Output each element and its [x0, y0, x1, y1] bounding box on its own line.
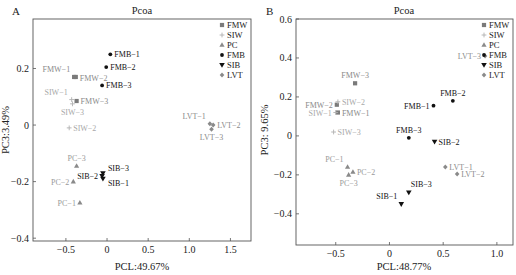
panel-a-legend: FMWSIWPCFMBSIBLVT	[219, 20, 247, 80]
data-point-pc-2: PC−2	[350, 168, 375, 177]
legend-pc-marker	[219, 42, 224, 47]
legend-item-siw: SIW	[482, 30, 505, 40]
pc-marker	[345, 164, 350, 169]
legend-item-lvt: LVT	[220, 70, 244, 80]
point-label: SIB−3	[108, 164, 129, 173]
legend-sib-marker	[481, 63, 487, 68]
lvt-marker	[443, 165, 448, 170]
legend-item-lvt: LVT	[482, 70, 506, 80]
x-tick-label: 1.0	[183, 244, 196, 255]
pcoa-figure: A Pcoa −0.500.51.01.5 −0.4−0.200.2 FMW−1…	[0, 0, 516, 275]
y-tick-label: 0.2	[17, 63, 30, 74]
legend-label: LVT	[489, 70, 506, 80]
legend-label: PC	[227, 40, 238, 50]
lvt-marker	[209, 127, 214, 132]
panel-b-y-ticks: −0.4−0.200.20.40.6	[274, 14, 299, 220]
point-label: SIW−3	[338, 128, 361, 137]
fmw-marker	[74, 75, 78, 79]
y-tick-label: 0.2	[280, 91, 293, 102]
legend-label: SIB	[227, 60, 241, 70]
panel-b: B Pcoa −0.500.51.0 −0.4−0.200.20.40.6 FM…	[259, 5, 513, 272]
point-label: SIB−2	[77, 172, 98, 181]
point-label: SIB−1	[108, 179, 129, 188]
x-tick-label: −0.5	[327, 248, 345, 259]
legend-label: FMW	[489, 20, 509, 30]
data-point-fmw-1: FMW−1	[336, 109, 370, 118]
data-point-siw-2: SIW−2	[67, 124, 97, 133]
legend-label: SIB	[489, 60, 503, 70]
siw-marker	[69, 97, 74, 102]
legend-sib-marker	[219, 63, 225, 68]
x-tick-label: 1.5	[224, 244, 237, 255]
point-label: PC−3	[339, 179, 357, 188]
data-point-fmw-3: FMW−3	[341, 71, 369, 85]
panel-a-title: Pcoa	[132, 5, 153, 16]
data-point-fmb-3: FMB−3	[396, 126, 421, 140]
data-point-siw-1: SIW−1	[309, 109, 339, 118]
legend-siw-marker	[220, 33, 225, 38]
legend-label: LVT	[227, 70, 244, 80]
point-label: FMB−2	[440, 89, 465, 98]
data-point-pc-3: PC−3	[67, 154, 85, 168]
legend-label: FMB	[489, 50, 507, 60]
data-point-siw-1: SIW−1	[44, 88, 74, 102]
legend-label: FMW	[227, 20, 247, 30]
legend-item-fmb: FMB	[220, 50, 245, 60]
pc-marker	[350, 169, 355, 174]
data-point-pc-1: PC−1	[58, 199, 83, 208]
y-tick-label: −0.2	[274, 169, 292, 180]
point-label: SIW−1	[309, 109, 332, 118]
point-label: FMW−3	[81, 97, 109, 106]
point-label: LVT−2	[461, 170, 484, 179]
panel-a-points: FMW−1FMW−2FMW−3SIW−1SIW−3SIW−2FMB−1FMB−2…	[43, 50, 241, 207]
legend-item-pc: PC	[219, 40, 237, 50]
y-tick-label: −0.2	[11, 176, 29, 187]
legend-item-fmw: FMW	[220, 20, 247, 30]
y-tick-label: 0	[24, 120, 29, 131]
point-label: PC−1	[325, 155, 343, 164]
fmw-marker	[353, 81, 357, 85]
point-label: FMW−2	[80, 74, 108, 83]
x-tick-label: 0.5	[437, 248, 450, 259]
point-label: FMB−3	[396, 126, 421, 135]
legend-fmb-marker	[482, 53, 486, 57]
legend-label: SIW	[489, 30, 505, 40]
fmb-marker	[407, 136, 411, 140]
x-tick-label: −0.5	[57, 244, 75, 255]
data-point-lvt-1: LVT−1	[183, 112, 213, 127]
data-point-lvt-2: LVT−2	[211, 121, 241, 130]
fmw-marker	[75, 99, 79, 103]
x-tick-label: 1.0	[491, 248, 504, 259]
point-label: LVT−2	[217, 121, 240, 130]
point-label: PC−1	[58, 199, 76, 208]
x-tick-label: 0	[105, 244, 110, 255]
legend-label: SIW	[227, 30, 243, 40]
point-label: LVT−1	[183, 112, 206, 121]
x-tick-label: 0.5	[142, 244, 155, 255]
pc-marker	[77, 200, 82, 205]
legend-siw-marker	[482, 33, 487, 38]
legend-item-siw: SIW	[220, 30, 243, 40]
data-point-siw-3: SIW−3	[331, 128, 361, 137]
panel-b-points: FMW−3FMW−2FMW−1SIW−2SIW−1SIW−3FMB−1FMB−2…	[305, 52, 487, 207]
legend-lvt-marker	[482, 73, 487, 78]
pc-marker	[74, 163, 79, 168]
point-label: FMB−1	[114, 50, 139, 59]
legend-pc-marker	[481, 42, 486, 47]
legend-fmw-marker	[482, 23, 486, 27]
fmb-marker	[108, 52, 112, 56]
point-label: FMW−1	[342, 109, 370, 118]
point-label: SIW−2	[73, 124, 96, 133]
panel-b-y-axis-title: PC3: 9.65%	[259, 104, 270, 155]
data-point-pc-3: PC−3	[339, 172, 357, 188]
point-label: FMB−2	[110, 63, 135, 72]
x-tick-label: 0	[387, 248, 392, 259]
panel-a: A Pcoa −0.500.51.01.5 −0.4−0.200.2 FMW−1…	[0, 5, 251, 272]
point-label: SIB−3	[411, 180, 432, 189]
legend-label: PC	[489, 40, 500, 50]
panel-letter-a: A	[12, 5, 20, 17]
legend-fmb-marker	[220, 53, 224, 57]
point-label: SIW−3	[61, 108, 84, 117]
y-tick-label: −0.4	[274, 208, 292, 219]
fmb-marker	[104, 65, 108, 69]
